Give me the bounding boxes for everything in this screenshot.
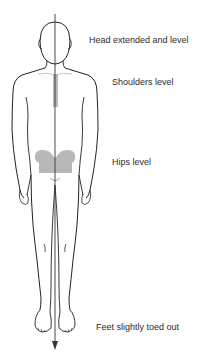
left-torso-side xyxy=(26,97,31,195)
neck-right xyxy=(63,61,65,68)
right-leg-outer xyxy=(69,175,79,310)
right-leg-inner xyxy=(55,185,60,312)
spine-highlight xyxy=(53,74,58,107)
left-foot xyxy=(35,310,51,332)
neck-left xyxy=(45,61,47,68)
label-feet: Feet slightly toed out xyxy=(96,323,179,332)
label-hips: Hips level xyxy=(112,158,151,167)
left-leg-inner xyxy=(50,185,55,312)
plumb-line-arrowhead xyxy=(52,341,58,350)
posture-figure xyxy=(0,0,207,353)
left-leg-outer xyxy=(31,175,41,310)
right-foot xyxy=(59,310,75,332)
label-head: Head extended and level xyxy=(89,36,189,45)
left-shoulder-arm-outer xyxy=(12,68,45,198)
right-torso-side xyxy=(79,97,84,195)
label-shoulders: Shoulders level xyxy=(112,78,174,87)
right-shoulder-arm-outer xyxy=(65,68,98,198)
